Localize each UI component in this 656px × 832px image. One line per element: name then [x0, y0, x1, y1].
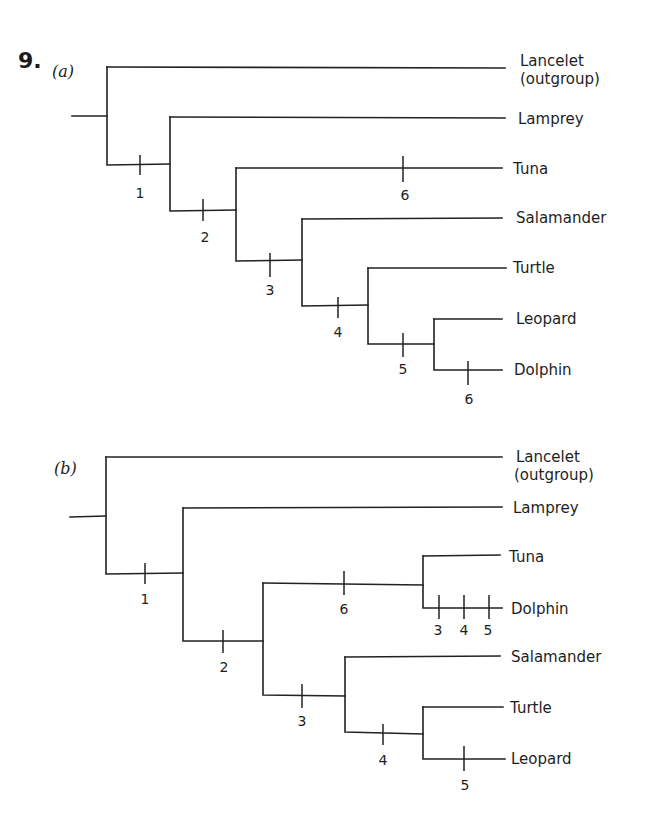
tree-b-tick-label-3-dolphin: 3	[434, 622, 443, 638]
tree-b-taxon-leopard: Leopard	[511, 750, 572, 768]
tree-a-taxon-dolphin: Dolphin	[514, 361, 572, 379]
tree-a-tick-label-2: 2	[201, 229, 210, 245]
tree-a: 1 2 6 3 4 5 6 Lancelet (outgroup) Lampre…	[72, 52, 607, 407]
tree-b-tick-label-6: 6	[340, 601, 349, 617]
tree-a-node-1	[170, 117, 236, 211]
tree-b-taxon-outgroup-note: (outgroup)	[514, 466, 594, 484]
tree-a-branch-lamprey	[170, 117, 505, 118]
tree-b-branch-lamprey	[183, 507, 502, 508]
tree-b-taxon-lancelet: Lancelet	[516, 448, 580, 466]
tree-b-tick-label-2: 2	[220, 659, 229, 675]
tree-a-tick-label-6-dolphin: 6	[465, 391, 474, 407]
tree-a-taxon-leopard: Leopard	[516, 310, 577, 328]
tree-a-tick-label-4: 4	[334, 324, 343, 340]
tree-b-node-1	[183, 508, 263, 641]
tree-b-branch-tuna	[423, 555, 500, 556]
tree-a-tick-label-1: 1	[136, 185, 145, 201]
tree-a-taxon-outgroup-note: (outgroup)	[520, 70, 600, 88]
tree-a-taxon-lamprey: Lamprey	[518, 110, 584, 128]
tree-a-branch-lancelet	[107, 67, 505, 68]
tree-a-branch-salamander	[302, 218, 502, 219]
tree-b-tick-label-4: 4	[379, 752, 388, 768]
tree-b-branch-salamander	[345, 656, 500, 657]
tree-a-taxon-turtle: Turtle	[512, 259, 555, 277]
tree-a-tick-label-5: 5	[399, 361, 408, 377]
tree-b-tick-label-5: 5	[461, 777, 470, 793]
tree-a-taxon-lancelet: Lancelet	[520, 52, 584, 70]
tree-b-root-node	[106, 457, 183, 574]
cladograms: 1 2 6 3 4 5 6 Lancelet (outgroup) Lampre…	[0, 0, 656, 832]
tree-a-node-3	[302, 219, 368, 306]
tree-a-node-2	[236, 168, 302, 261]
tree-a-root-node	[107, 67, 170, 165]
tree-b-taxon-tuna: Tuna	[508, 548, 544, 566]
tree-b-taxon-lamprey: Lamprey	[513, 499, 579, 517]
tree-b-node-3	[345, 657, 423, 734]
tree-b-root-stem	[70, 516, 106, 517]
tree-a-tick-label-6-tuna: 6	[401, 187, 410, 203]
tree-b-node-tuna-dolphin	[423, 556, 502, 608]
tree-b: 1 2 6 3 4 5 3 4 5 Lancelet (outgroup) La…	[70, 448, 602, 793]
tree-b-node-2	[263, 583, 345, 696]
tree-a-taxon-salamander: Salamander	[516, 209, 607, 227]
tree-b-branch-tuna-dolphin-stem	[263, 583, 423, 585]
tree-a-tick-label-3: 3	[266, 282, 275, 298]
tree-b-tick-label-3: 3	[298, 713, 307, 729]
tree-b-taxon-dolphin: Dolphin	[511, 600, 569, 618]
tree-b-taxon-turtle: Turtle	[509, 699, 552, 717]
tree-b-taxon-salamander: Salamander	[511, 648, 602, 666]
tree-b-tick-label-1: 1	[141, 591, 150, 607]
tree-b-tick-label-5-dolphin: 5	[484, 622, 493, 638]
tree-a-node-4	[368, 268, 434, 344]
tree-b-tick-label-4-dolphin: 4	[460, 622, 469, 638]
tree-a-taxon-tuna: Tuna	[512, 160, 548, 178]
